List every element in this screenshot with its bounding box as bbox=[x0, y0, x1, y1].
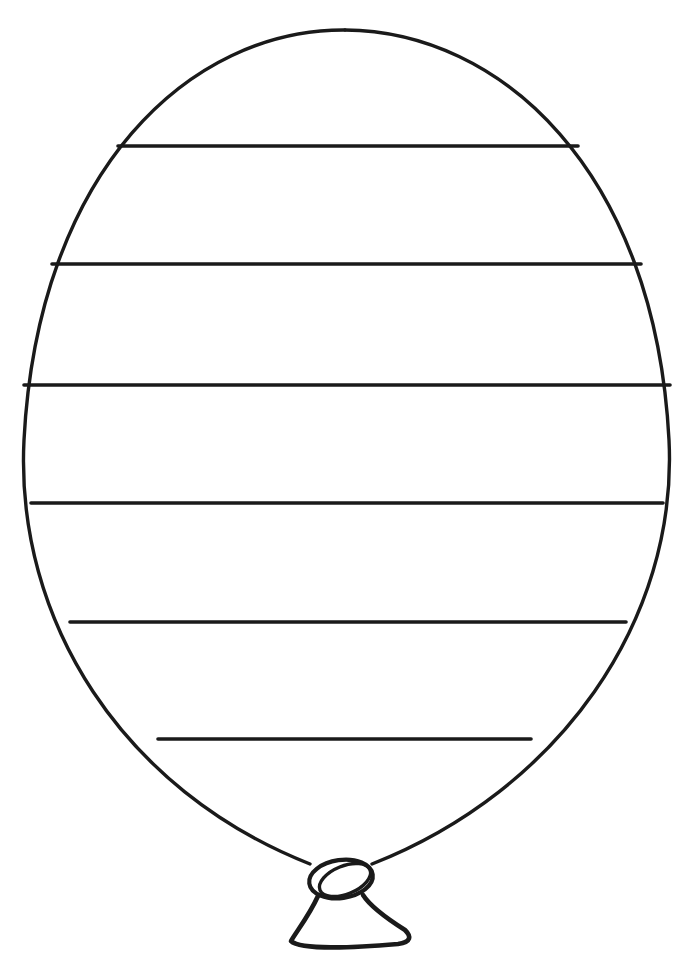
balloon-illustration bbox=[0, 0, 698, 966]
drawing-canvas bbox=[0, 0, 698, 966]
